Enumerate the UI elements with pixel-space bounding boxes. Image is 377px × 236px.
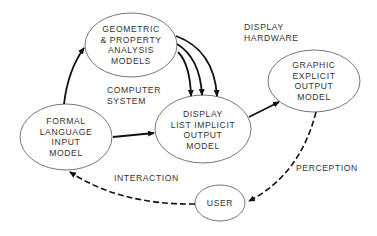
line: FORMAL [40, 116, 93, 127]
line: MODELS [100, 56, 161, 67]
line: MODEL [171, 141, 235, 152]
perception-label: PERCEPTION [296, 163, 358, 174]
line: OUTPUT [171, 130, 235, 141]
line: GEOMETRIC [100, 24, 161, 35]
line: HARDWARE [244, 33, 299, 44]
display-list-node-label: DISPLAY LIST IMPLICIT OUTPUT MODEL [171, 109, 235, 151]
line: MODEL [40, 148, 93, 159]
display-hardware-label: DISPLAY HARDWARE [244, 22, 299, 43]
line: OUTPUT [292, 81, 335, 92]
geometric-node-label: GEOMETRIC & PROPERTY ANALYSIS MODELS [100, 24, 161, 66]
line: INPUT [40, 137, 93, 148]
line: ANALYSIS [100, 45, 161, 56]
computer-system-label: COMPUTER SYSTEM [107, 85, 161, 106]
arrow-geometric-to-display-2 [177, 44, 202, 95]
user-node-label: USER [207, 198, 233, 209]
line: LIST IMPLICIT [171, 119, 235, 130]
line: COMPUTER [107, 85, 161, 96]
formal-node-label: FORMAL LANGUAGE INPUT MODEL [40, 116, 93, 158]
arrow-formal-to-geometric [64, 48, 84, 104]
interaction-label: INTERACTION [114, 173, 179, 184]
line: DISPLAY [171, 109, 235, 120]
line: EXPLICIT [292, 70, 335, 81]
graphic-node-label: GRAPHIC EXPLICIT OUTPUT MODEL [292, 60, 335, 102]
arrow-geometric-to-display-3 [178, 52, 191, 96]
arrow-perception [249, 112, 316, 201]
arrow-display-to-graphic [249, 102, 279, 117]
line: DISPLAY [244, 22, 299, 33]
line: USER [207, 198, 233, 209]
line: SYSTEM [107, 96, 161, 107]
diagram-canvas: GEOMETRIC & PROPERTY ANALYSIS MODELS FOR… [0, 0, 377, 236]
line: GRAPHIC [292, 60, 335, 71]
arrow-formal-to-display [113, 133, 154, 137]
line: LANGUAGE [40, 126, 93, 137]
line: MODEL [292, 92, 335, 103]
line: & PROPERTY [100, 34, 161, 45]
